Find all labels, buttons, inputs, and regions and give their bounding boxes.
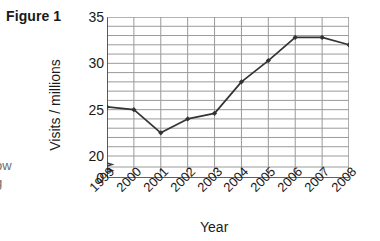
x-axis-tick-label: 2005 — [248, 165, 278, 195]
x-axis-tick-label: 2000 — [114, 165, 144, 195]
x-axis-tick-label: 2007 — [302, 165, 332, 195]
x-axis-tick-label: 2003 — [195, 165, 225, 195]
x-axis-tick-label: 2002 — [168, 165, 198, 195]
x-axis-title: Year — [200, 219, 228, 235]
x-axis-tick-label: 2008 — [329, 165, 359, 195]
x-axis-tick-labels: 1999200020012002200320042005200620072008 — [0, 0, 380, 241]
x-axis-tick-label: 2001 — [141, 165, 171, 195]
x-axis-tick-label: 1999 — [87, 165, 117, 195]
x-axis-tick-label: 2006 — [275, 165, 305, 195]
x-axis-tick-label: 2004 — [221, 165, 251, 195]
figure-container: Figure 1 i ow g Visits / millions 020253… — [0, 0, 380, 241]
